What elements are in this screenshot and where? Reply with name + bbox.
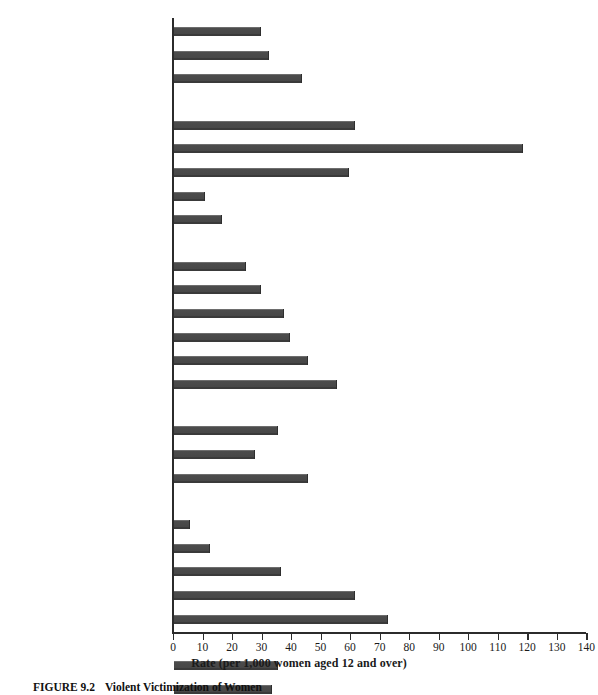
bar: [174, 356, 308, 365]
bar: [174, 27, 261, 36]
bar: [174, 144, 523, 153]
bar: [174, 615, 388, 624]
bar: [174, 309, 284, 318]
x-axis-tick: [380, 633, 381, 640]
figure-title: Violent Victimization of Women: [105, 681, 262, 693]
x-axis-tick-label: 40: [285, 641, 297, 653]
x-axis-tick-label: 30: [256, 641, 268, 653]
x-axis-tick-label: 20: [226, 641, 238, 653]
x-axis-tick: [409, 633, 410, 640]
chart-plot-area: Rural ResidenceSuburban ResidenceUrban R…: [0, 0, 598, 640]
x-axis-tick: [203, 633, 204, 640]
x-axis-tick-label: 50: [315, 641, 327, 653]
bar: [174, 450, 255, 459]
bar: [174, 74, 302, 83]
bar: [174, 380, 337, 389]
x-axis-tick-label: 70: [374, 641, 386, 653]
x-axis-title: Rate (per 1,000 women aged 12 and over): [0, 656, 598, 671]
bar: [174, 285, 261, 294]
x-axis-tick: [586, 633, 587, 640]
x-axis-tick: [173, 633, 174, 640]
bar: [174, 591, 355, 600]
bar: [174, 262, 246, 271]
x-axis-tick-label: 130: [548, 641, 565, 653]
x-axis-tick: [321, 633, 322, 640]
x-axis-tick: [527, 633, 528, 640]
bar: [174, 192, 205, 201]
x-axis-tick: [498, 633, 499, 640]
bar: [174, 333, 290, 342]
x-axis-tick: [291, 633, 292, 640]
bar: [174, 426, 278, 435]
bar: [174, 51, 269, 60]
bar: [174, 544, 210, 553]
x-axis-tick: [350, 633, 351, 640]
bar: [174, 168, 349, 177]
x-axis-tick-label: 0: [170, 641, 176, 653]
x-axis-tick: [232, 633, 233, 640]
figure-container: Rural ResidenceSuburban ResidenceUrban R…: [0, 0, 598, 695]
bar: [174, 567, 281, 576]
x-axis-tick-label: 100: [460, 641, 477, 653]
x-axis-tick: [262, 633, 263, 640]
x-axis-tick: [439, 633, 440, 640]
figure-caption: FIGURE 9.2Violent Victimization of Women: [33, 681, 262, 693]
x-axis-tick-label: 120: [519, 641, 536, 653]
x-axis-tick: [557, 633, 558, 640]
bar: [174, 520, 190, 529]
figure-number: FIGURE 9.2: [33, 681, 95, 693]
x-axis-tick-label: 90: [433, 641, 445, 653]
x-axis-tick-label: 110: [489, 641, 506, 653]
x-axis-tick-label: 140: [578, 641, 595, 653]
bar: [174, 474, 308, 483]
x-axis-tick-label: 60: [344, 641, 356, 653]
x-axis-tick: [468, 633, 469, 640]
x-axis-tick-label: 10: [197, 641, 209, 653]
x-axis-tick-label: 80: [403, 641, 415, 653]
bar: [174, 121, 355, 130]
bar: [174, 215, 222, 224]
y-axis-line: [172, 18, 174, 633]
